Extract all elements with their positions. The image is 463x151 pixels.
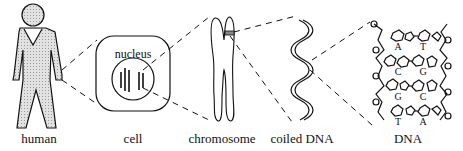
zoom-lines-coiled-dna bbox=[310, 22, 372, 125]
coiled-dna-icon bbox=[291, 20, 313, 120]
human-figure-icon bbox=[13, 4, 62, 128]
stage-label-dna: DNA bbox=[394, 131, 422, 147]
base-letter: C bbox=[395, 66, 402, 77]
base-letter: T bbox=[420, 41, 426, 52]
base-letter: C bbox=[420, 91, 427, 102]
base-letter: G bbox=[419, 66, 426, 77]
chromosome-icon bbox=[211, 17, 234, 121]
base-letter: A bbox=[394, 41, 401, 52]
stage-label-chromosome: chromosome bbox=[188, 131, 255, 147]
base-letter: G bbox=[394, 91, 401, 102]
diagram-graphics bbox=[0, 0, 463, 151]
base-letter: A bbox=[419, 116, 426, 127]
dna-double-helix-icon bbox=[371, 21, 451, 120]
chromosomes-in-nucleus bbox=[121, 68, 143, 92]
stage-label-human: human bbox=[21, 131, 56, 147]
dna-hierarchy-diagram: nucleus A T C G G C T A human cell chrom… bbox=[0, 0, 463, 151]
base-letter: T bbox=[395, 116, 401, 127]
zoom-lines-human-cell bbox=[62, 40, 97, 104]
zoom-lines-chromosome-coiled bbox=[230, 16, 296, 122]
stage-label-cell: cell bbox=[124, 131, 143, 147]
stage-label-coiled-dna: coiled DNA bbox=[270, 131, 333, 147]
nucleus-label: nucleus bbox=[115, 47, 152, 62]
zoom-lines-cell-chromosome bbox=[143, 17, 209, 120]
chromosome-highlight-band bbox=[225, 31, 234, 35]
